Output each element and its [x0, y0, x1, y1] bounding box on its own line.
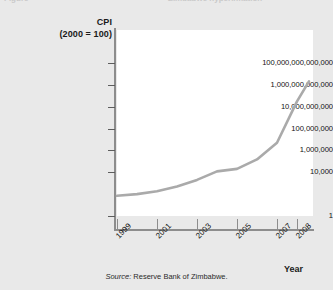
source-label: Source: [105, 272, 131, 281]
figure-hyperinflation-chart: Figure Zimbabwe hyperinflation CPI (2000… [0, 0, 333, 290]
source-text: Reserve Bank of Zimbabwe. [131, 272, 227, 281]
cpi-line-series [117, 81, 309, 195]
data-series-layer [0, 0, 333, 290]
source-note: Source: Reserve Bank of Zimbabwe. [0, 272, 333, 281]
